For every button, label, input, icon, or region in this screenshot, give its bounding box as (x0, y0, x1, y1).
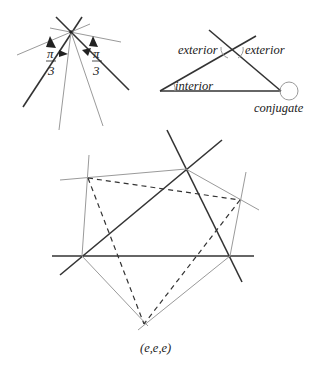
diagram-canvas: π 3 π 3 exterior exterior interior conju… (0, 0, 321, 365)
figure-eee-construction: (e,e,e) (52, 130, 259, 355)
thin-line-3 (82, 155, 89, 256)
thin-line-1 (60, 169, 186, 180)
figure-triangle-angles: exterior exterior interior conjugate (160, 30, 304, 115)
arrow-icon (59, 50, 68, 57)
label-pi-left: π (47, 46, 54, 61)
caption-eee: (e,e,e) (140, 341, 171, 355)
conjugate-circle (280, 82, 298, 100)
label-3-right: 3 (92, 63, 100, 78)
label-conjugate: conjugate (254, 101, 304, 115)
label-exterior-right: exterior (245, 43, 285, 57)
label-pi-right: π (93, 46, 100, 61)
thin-line-c (59, 32, 71, 130)
center-point (69, 30, 73, 34)
thin-line-5 (82, 256, 148, 326)
label-interior: interior (175, 79, 213, 93)
exterior-arc-right (238, 47, 243, 58)
thin-line-6 (138, 256, 230, 330)
label-3-left: 3 (47, 63, 55, 78)
thick-line-1 (167, 130, 242, 282)
figure-angle-star: π 3 π 3 (17, 17, 129, 130)
thick-line-2 (60, 140, 222, 275)
thin-line-4 (230, 172, 246, 256)
thin-line-b (50, 28, 121, 42)
dashed-side-right (144, 200, 240, 324)
dashed-side-top (88, 178, 240, 200)
dashed-side-left (88, 178, 144, 324)
arrow-icon (82, 48, 91, 56)
thick-line-down-left (23, 17, 82, 107)
triangle-right-side (209, 30, 281, 91)
label-exterior-left: exterior (178, 43, 218, 57)
